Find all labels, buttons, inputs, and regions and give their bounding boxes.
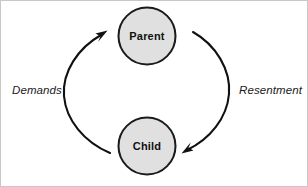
node-parent[interactable]: Parent xyxy=(119,8,176,65)
diagram-canvas: Parent Child Demands Resentment xyxy=(0,0,308,187)
edge-demands xyxy=(64,31,110,154)
parent-node-label: Parent xyxy=(129,30,165,42)
resentment-edge-label: Resentment xyxy=(239,84,303,96)
demands-arc-path xyxy=(64,35,110,153)
resentment-arc-path xyxy=(187,32,229,150)
node-child[interactable]: Child xyxy=(119,118,176,175)
child-node-label: Child xyxy=(133,140,162,152)
edge-resentment xyxy=(182,32,230,154)
demands-edge-label: Demands xyxy=(12,84,62,96)
parent-child-cycle-diagram: Parent Child Demands Resentment xyxy=(0,0,308,187)
